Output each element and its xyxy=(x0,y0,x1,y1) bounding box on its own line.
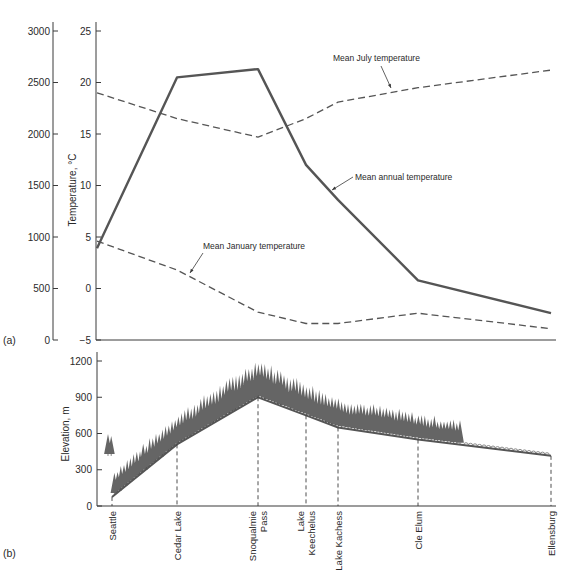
panel-a-temperature-chart: 050010001500200025003000 −50510152025 Me… xyxy=(3,22,556,346)
panel-a-label: (a) xyxy=(3,334,16,346)
tick-label: 600 xyxy=(75,428,92,439)
elevation-axis-title: Elevation, m xyxy=(60,406,71,461)
station-label: Lake xyxy=(295,511,306,532)
mean-january-temperature-line xyxy=(97,241,551,329)
mean-july-temperature-label: Mean July temperature xyxy=(333,53,420,63)
tick-label: 300 xyxy=(75,464,92,475)
secondary-y-axis: 050010001500200025003000 xyxy=(28,22,58,346)
station-label: Pass xyxy=(258,511,269,532)
tick-label: 1500 xyxy=(28,180,51,191)
tick-label: 0 xyxy=(86,501,92,512)
series-annotations: Mean annual temperatureMean July tempera… xyxy=(190,53,453,273)
tick-label: 10 xyxy=(80,180,92,191)
tick-label: 500 xyxy=(33,283,50,294)
arrowhead-icon xyxy=(332,187,336,190)
mean-january-temperature-label: Mean January temperature xyxy=(203,241,305,251)
station-label: Lake Kachess xyxy=(333,511,344,571)
tick-label: 2500 xyxy=(28,77,51,88)
forest-vegetation xyxy=(104,363,549,495)
tick-label: 5 xyxy=(85,232,91,243)
tick-label: −5 xyxy=(80,335,92,346)
conifer-trees xyxy=(104,363,464,493)
station-label: Seattle xyxy=(107,511,118,541)
station-label: Ellensburg xyxy=(546,511,557,556)
station-label: Keechelus xyxy=(306,511,317,556)
arrowhead-icon xyxy=(388,84,391,88)
station-label: Cle Elum xyxy=(413,511,424,550)
tick-label: 25 xyxy=(80,26,92,37)
climate-elevation-figure: 050010001500200025003000 −50510152025 Me… xyxy=(0,0,580,586)
figure: 050010001500200025003000 −50510152025 Me… xyxy=(0,0,580,586)
mean-annual-temperature-line xyxy=(97,69,551,313)
tick-label: 900 xyxy=(75,392,92,403)
tick-label: 1000 xyxy=(28,232,51,243)
panel-b-label: (b) xyxy=(3,547,16,559)
tick-label: 20 xyxy=(80,77,92,88)
tick-label: 15 xyxy=(80,129,92,140)
station-labels: SeattleCedar LakeSnoqualmiePassLakeKeech… xyxy=(107,511,557,571)
mean-annual-temperature-label: Mean annual temperature xyxy=(355,172,453,182)
station-label: Snoqualmie xyxy=(247,511,258,561)
tick-label: 0 xyxy=(85,283,91,294)
tick-label: 3000 xyxy=(28,26,51,37)
elevation-y-axis: 03006009001200 xyxy=(70,352,556,512)
arrowhead-icon xyxy=(190,269,194,273)
tick-label: 0 xyxy=(44,335,50,346)
station-label: Cedar Lake xyxy=(172,511,183,560)
tick-label: 1200 xyxy=(70,356,93,367)
tick-label: 2000 xyxy=(28,129,51,140)
temperature-series xyxy=(97,69,551,329)
panel-b-elevation-profile: 03006009001200 SeattleCedar LakeSnoqualm… xyxy=(3,352,557,571)
temperature-axis-title: Temperature, °C xyxy=(67,154,78,227)
